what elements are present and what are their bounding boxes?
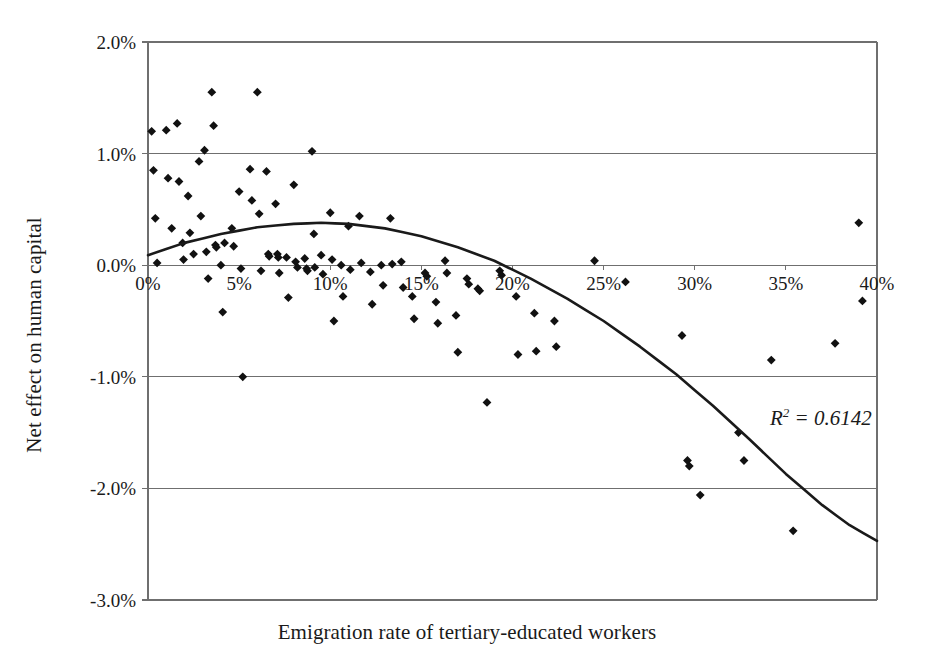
axes-group — [148, 42, 877, 600]
gridlines-group — [148, 42, 877, 600]
chart-figure: Net effect on human capital Emigration r… — [0, 0, 934, 655]
y-axis-label: Net effect on human capital — [14, 55, 54, 615]
x-axis-label: Emigration rate of tertiary-educated wor… — [0, 620, 934, 645]
y-tick-label: 2.0% — [46, 33, 136, 52]
x-tick-label: 15% — [386, 274, 456, 293]
x-tick-label: 10% — [295, 274, 365, 293]
y-tickmarks-group — [142, 42, 148, 600]
x-tick-label: 5% — [204, 274, 274, 293]
x-tick-label: 20% — [478, 274, 548, 293]
y-tick-label: 1.0% — [46, 145, 136, 164]
x-tick-label: 35% — [751, 274, 821, 293]
scatter-plot-canvas — [0, 0, 934, 655]
y-tick-label: -2.0% — [46, 479, 136, 498]
r-squared-value: 0.6142 — [814, 406, 872, 430]
data-points-group — [147, 88, 867, 535]
x-tick-label: 0% — [113, 274, 183, 293]
y-tick-label: -1.0% — [46, 368, 136, 387]
r-squared-annotation: R2 = 0.6142 — [770, 405, 872, 431]
x-tick-label: 25% — [569, 274, 639, 293]
y-tick-label: 0.0% — [46, 256, 136, 275]
x-tick-label: 40% — [842, 274, 912, 293]
x-tick-label: 30% — [660, 274, 730, 293]
y-tick-label: -3.0% — [46, 591, 136, 610]
